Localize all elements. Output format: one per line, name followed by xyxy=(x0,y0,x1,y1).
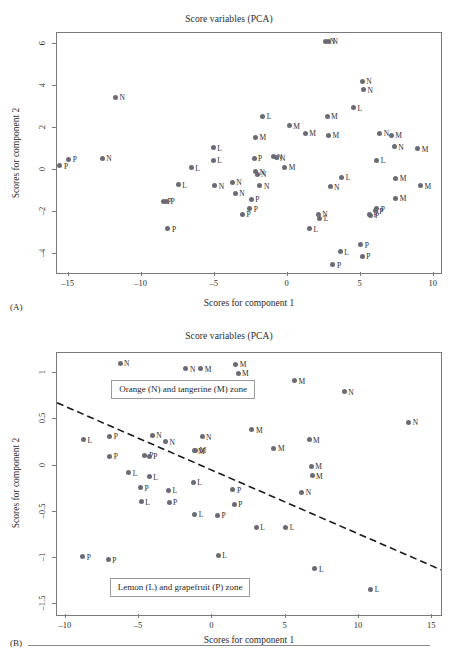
y-axis-tick xyxy=(52,418,56,419)
chart-title-a: Score variables (PCA) xyxy=(0,14,458,24)
data-point xyxy=(107,434,112,439)
data-point xyxy=(211,158,216,163)
data-point-label: N xyxy=(333,39,338,47)
y-axis-tick xyxy=(52,211,56,212)
data-point xyxy=(176,182,181,187)
data-point-label: N xyxy=(280,155,285,163)
x-axis-title-a: Scores for component 1 xyxy=(56,298,442,308)
data-point xyxy=(189,165,194,170)
data-point-label: N xyxy=(334,184,339,192)
data-point-label: N xyxy=(236,180,241,188)
x-axis-title-b: Scores for component 1 xyxy=(56,635,442,645)
x-axis-tick-label: –10 xyxy=(134,278,147,288)
x-axis-tick-label: –5 xyxy=(209,278,218,288)
y-axis-tick-label: 1 xyxy=(37,370,47,374)
data-point xyxy=(358,242,363,247)
data-point-label: N xyxy=(413,419,418,427)
data-point xyxy=(255,172,260,177)
data-point-label: L xyxy=(319,566,324,574)
data-point xyxy=(282,165,287,170)
x-axis-tick-label: 0 xyxy=(209,620,213,630)
data-point-label: M xyxy=(422,146,429,154)
data-point-label: L xyxy=(217,145,222,153)
panel-a: Score variables (PCA) PPNNPPPLLLLNNNPPPP… xyxy=(0,0,458,325)
data-point-label: M xyxy=(205,366,212,374)
data-point-label: N xyxy=(219,183,224,191)
data-point-label: L xyxy=(381,158,386,166)
x-axis-tick xyxy=(287,272,288,276)
data-point-label: L xyxy=(375,586,380,594)
data-point xyxy=(232,502,237,507)
y-axis-tick xyxy=(52,557,56,558)
data-point-label: N xyxy=(206,434,211,442)
data-point xyxy=(254,525,259,530)
data-point xyxy=(377,131,382,136)
y-axis-tick xyxy=(52,253,56,254)
data-point-label: M xyxy=(289,165,296,173)
data-point xyxy=(330,262,335,267)
data-point xyxy=(147,454,152,459)
y-axis-tick-label: 6 xyxy=(37,40,47,44)
data-point xyxy=(257,183,262,188)
data-point-label: P xyxy=(112,557,116,565)
data-point xyxy=(57,163,62,168)
data-point xyxy=(216,553,221,558)
data-point xyxy=(252,156,257,161)
data-point xyxy=(150,433,155,438)
y-axis-tick-label: 0 xyxy=(37,462,47,466)
data-point-label: N xyxy=(124,360,129,368)
x-axis-tick xyxy=(68,272,69,276)
data-point xyxy=(351,105,356,110)
data-point-label: L xyxy=(172,488,177,496)
data-point-label: N xyxy=(239,190,244,198)
data-point xyxy=(66,157,71,162)
plot-area-a: PPNNPPPLLLLNNNPPPPMNNNLNNMMMLNLNNMMNPLLL… xyxy=(57,33,441,273)
plot-frame-a: PPNNPPPLLLLNNNPPPPMNNNLNNMMMLNLNNMMNPLLL… xyxy=(56,32,442,274)
data-point-label: M xyxy=(395,132,402,140)
data-point-label: P xyxy=(114,433,118,441)
x-axis-tick-label: 5 xyxy=(283,620,287,630)
data-point xyxy=(393,196,398,201)
data-point xyxy=(328,184,333,189)
data-point xyxy=(338,249,343,254)
data-point-label: L xyxy=(133,470,138,478)
data-point xyxy=(253,135,258,140)
data-point xyxy=(211,145,216,150)
zone-annotation: Lemon (L) and grapefruit (P) zone xyxy=(110,578,251,597)
data-point-label: L xyxy=(199,512,204,520)
data-point-label: M xyxy=(278,445,285,453)
panel-label-a: (A) xyxy=(10,302,23,312)
data-point-label: P xyxy=(366,253,370,261)
figure-container: Score variables (PCA) PPNNPPPLLLLNNNPPPP… xyxy=(0,0,458,652)
chart-title-b: Score variables (PCA) xyxy=(0,331,458,341)
data-point xyxy=(307,437,312,442)
x-axis-tick-label: 5 xyxy=(358,278,362,288)
x-axis-tick xyxy=(65,614,66,618)
data-point-label: N xyxy=(261,171,266,179)
data-point-label: P xyxy=(254,206,258,214)
data-point-label: L xyxy=(324,216,329,224)
data-point-label: P xyxy=(381,206,385,214)
data-point xyxy=(326,133,331,138)
x-axis-tick xyxy=(360,272,361,276)
x-axis-tick xyxy=(214,272,215,276)
data-point-label: L xyxy=(346,174,351,182)
data-point-label: P xyxy=(145,485,149,493)
data-point-label: N xyxy=(366,79,371,87)
data-point-label: N xyxy=(169,439,174,447)
y-axis-tick xyxy=(52,127,56,128)
y-axis-tick-label: 2 xyxy=(37,125,47,129)
data-point xyxy=(230,180,235,185)
data-point-label: P xyxy=(64,163,68,171)
data-point xyxy=(249,197,254,202)
x-axis-tick xyxy=(211,614,212,618)
x-axis-tick xyxy=(285,614,286,618)
panel-label-b: (B) xyxy=(10,638,22,648)
data-point xyxy=(113,95,118,100)
data-point xyxy=(418,183,423,188)
data-point xyxy=(339,175,344,180)
data-point xyxy=(361,87,366,92)
data-point xyxy=(247,206,252,211)
plot-frame-b: LPPPPNLPLPPLNNLPNLMMLMNPLMMPPMLMLMNMMMLN… xyxy=(56,352,442,616)
data-point xyxy=(106,557,111,562)
